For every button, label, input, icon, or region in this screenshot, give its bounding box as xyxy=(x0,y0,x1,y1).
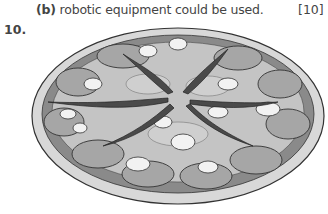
question-part-b: (b) robotic equipment could be used. xyxy=(36,2,264,17)
pizza-icon xyxy=(28,24,328,214)
marks-label: [10] xyxy=(298,2,324,17)
part-text: robotic equipment could be used. xyxy=(60,2,264,17)
question-number: 10. xyxy=(4,22,26,37)
part-label: (b) xyxy=(36,2,56,17)
pizza-illustration xyxy=(28,24,328,214)
